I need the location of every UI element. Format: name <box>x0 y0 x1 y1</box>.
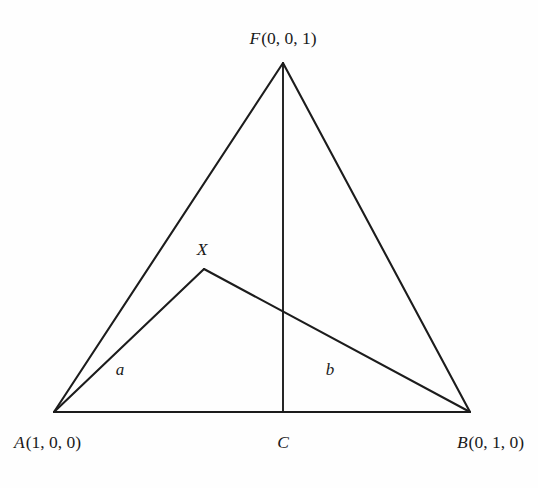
vertex-coords-B: (0, 1, 0) <box>469 432 525 452</box>
segment-label-a: a <box>116 360 125 379</box>
point-label-X: X <box>196 239 209 259</box>
diagram-canvas: F(0, 0, 1) A(1, 0, 0) B(0, 1, 0) C X a b <box>0 0 538 488</box>
segment-a-line-AX <box>54 269 204 412</box>
vertex-label-F: F(0, 0, 1) <box>248 28 316 48</box>
vertex-symbol-F: F <box>248 28 260 48</box>
triangle-left-edge-AF <box>54 63 283 412</box>
vertex-label-B: B(0, 1, 0) <box>457 432 524 452</box>
vertex-symbol-A: A <box>13 432 25 452</box>
ternary-triangle-diagram: F(0, 0, 1) A(1, 0, 0) B(0, 1, 0) C X a b <box>0 0 538 488</box>
segment-label-b: b <box>326 360 335 379</box>
point-label-C: C <box>277 432 289 452</box>
vertex-coords-A: (1, 0, 0) <box>26 432 82 452</box>
vertex-coords-F: (0, 0, 1) <box>261 28 317 48</box>
segment-b-line-XB <box>204 269 470 412</box>
triangle-right-edge-FB <box>283 63 470 412</box>
vertex-symbol-B: B <box>457 432 468 452</box>
vertex-label-A: A(1, 0, 0) <box>13 432 81 452</box>
